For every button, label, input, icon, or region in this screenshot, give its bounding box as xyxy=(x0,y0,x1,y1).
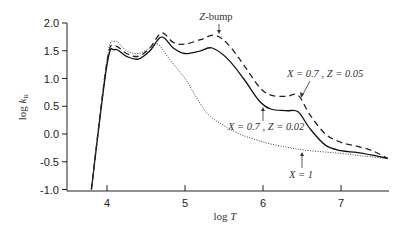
y-tick-label: 0.5 xyxy=(44,100,59,112)
annotation-zbump: Z-bump xyxy=(199,11,232,34)
arrowhead-icon xyxy=(217,30,221,34)
y-tick-label: 2.0 xyxy=(44,17,59,29)
opacity-chart: 2.01.51.00.50.0-0.5-1.0 4567 log T log k… xyxy=(0,0,404,237)
arrowhead-icon xyxy=(261,107,265,111)
y-tick-label: 1.0 xyxy=(44,73,59,85)
x-tick-label: 7 xyxy=(338,197,344,209)
svg-text:Z-bump: Z-bump xyxy=(199,11,232,22)
annotation-z005: X = 0.7 , Z = 0.05 xyxy=(286,68,363,98)
series-group xyxy=(91,33,387,190)
y-ticks: 2.01.51.00.50.0-0.5-1.0 xyxy=(40,17,67,196)
y-tick-label: -1.0 xyxy=(40,184,59,196)
x-ticks: 4567 xyxy=(104,185,344,209)
series-z005-dashed xyxy=(91,33,387,190)
x-axis-label: log T xyxy=(214,210,238,222)
arrowhead-icon xyxy=(300,152,304,156)
svg-text:X = 0.7 , Z = 0.05: X = 0.7 , Z = 0.05 xyxy=(286,68,363,79)
x-tick-label: 6 xyxy=(260,197,266,209)
series-x1-dotted xyxy=(91,41,387,189)
x-tick-label: 5 xyxy=(182,197,188,209)
y-tick-label: -0.5 xyxy=(40,156,59,168)
y-axis-label: log kR xyxy=(16,93,30,120)
annotation-x1: X = 1 xyxy=(288,152,313,180)
y-tick-label: 1.5 xyxy=(44,45,59,57)
x-tick-label: 4 xyxy=(104,197,110,209)
svg-text:X = 0.7 , Z = 0.02: X = 0.7 , Z = 0.02 xyxy=(227,121,305,132)
svg-text:X = 1: X = 1 xyxy=(288,169,313,180)
y-tick-label: 0.0 xyxy=(44,128,59,140)
